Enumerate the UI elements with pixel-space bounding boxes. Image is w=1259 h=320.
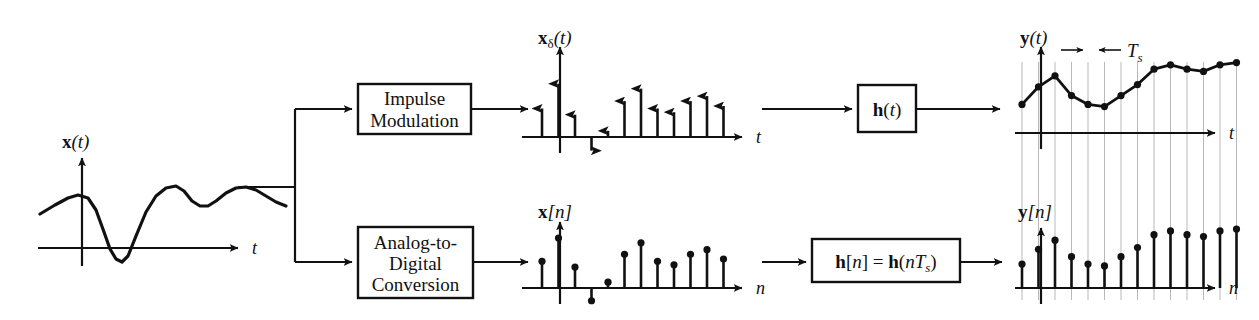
y-of-n-sample-dot	[1134, 244, 1141, 251]
y-of-t-sample-dot	[1051, 72, 1058, 79]
y-of-n-sample-dot	[1084, 260, 1091, 267]
x-delta-of-t-signal-label: xδ(t)	[538, 27, 572, 51]
x-of-n-sample-dot	[703, 246, 710, 253]
y-of-n-sample-dot	[1150, 231, 1157, 238]
x-of-n-axes	[522, 222, 742, 304]
y-of-t-sample-dot	[1167, 61, 1174, 68]
x-of-n-sample-dot	[538, 258, 545, 265]
y-of-n-sample-dot	[1018, 260, 1025, 267]
x-of-n-sample-dot	[670, 261, 677, 268]
x-of-t-waveform	[40, 186, 286, 262]
blocks-layer: ImpulseModulation Analog-to-DigitalConve…	[358, 84, 960, 298]
ts-label: Ts	[1127, 40, 1143, 65]
y-of-t-sample-dot	[1134, 81, 1141, 88]
x-delta-of-t-axes	[522, 47, 742, 153]
x-of-n-sample-dot	[654, 258, 661, 265]
y-of-n-sample-dot	[1183, 231, 1190, 238]
x-of-n-sample-dot	[637, 239, 644, 246]
x-of-n-sample-dot	[555, 235, 562, 242]
y-of-n-stems	[1018, 226, 1240, 288]
y-of-t-sample-dot	[1183, 66, 1190, 73]
y-of-n-sample-dot	[1200, 233, 1207, 240]
y-of-t-sample-dot	[1035, 83, 1042, 90]
y-of-n-sample-dot	[1035, 246, 1042, 253]
x-of-n-x-axis-label: n	[756, 278, 765, 298]
y-of-t-sample-dot	[1084, 101, 1091, 108]
y-of-n-sample-dot	[1216, 227, 1223, 234]
x-delta-of-t-x-axis-label: t	[756, 127, 762, 147]
y-of-t-sample-dot	[1117, 92, 1124, 99]
plots-layer	[38, 47, 1240, 304]
y-of-n-sample-dot	[1051, 237, 1058, 244]
x-of-n-sample-dot	[621, 251, 628, 258]
x-of-n-sample-dot	[588, 297, 595, 304]
y-of-n-sample-dot	[1167, 227, 1174, 234]
y-of-t-x-axis-label: t	[1229, 123, 1235, 143]
x-of-n-sample-dot	[604, 279, 611, 286]
labels-layer: tx(t)txδ(t)nx[n]ty(t)Tsny[n]	[62, 27, 1238, 298]
y-of-t-sample-dot	[1233, 59, 1240, 66]
x-of-n-sample-dot	[687, 251, 694, 258]
y-of-n-axes	[1015, 228, 1215, 304]
y-of-n-signal-label: y[n]	[1018, 201, 1052, 222]
signal-processing-block-diagram: ImpulseModulation Analog-to-DigitalConve…	[0, 0, 1259, 320]
x-delta-of-t-stems	[542, 84, 724, 151]
y-of-t-sample-dot	[1101, 103, 1108, 110]
block-label-h-of-n: h[n] = h(nTs)	[835, 251, 936, 275]
x-of-t-x-axis-label: t	[252, 238, 258, 258]
x-of-n-stems	[538, 235, 727, 305]
x-of-n-sample-dot	[720, 255, 727, 262]
y-of-t-sample-dot	[1068, 92, 1075, 99]
y-of-n-sample-dot	[1101, 262, 1108, 269]
y-of-t-sample-dot	[1216, 61, 1223, 68]
y-of-t-sample-dot	[1150, 66, 1157, 73]
y-of-n-x-axis-label: n	[1229, 278, 1238, 298]
y-of-t-sample-dot	[1018, 101, 1025, 108]
x-of-t-signal-label: x(t)	[62, 131, 89, 153]
x-of-t-axes	[38, 158, 238, 266]
x-of-n-sample-dot	[571, 264, 578, 271]
block-h-of-t[interactable]: h(t)	[858, 85, 916, 132]
y-of-n-sample-dot	[1233, 226, 1240, 233]
block-h-of-n[interactable]: h[n] = h(nTs)	[812, 239, 960, 282]
y-of-n-sample-dot	[1068, 253, 1075, 260]
y-of-n-sample-dot	[1117, 253, 1124, 260]
y-of-t-signal-label: y(t)	[1020, 27, 1047, 49]
block-label-h-of-t: h(t)	[873, 99, 902, 121]
x-of-n-signal-label: x[n]	[538, 201, 572, 222]
y-of-t-sample-dot	[1200, 68, 1207, 75]
block-impulse-modulation[interactable]: ImpulseModulation	[358, 84, 471, 134]
block-analog-to-digital-conversion[interactable]: Analog-to-DigitalConversion	[358, 227, 473, 298]
